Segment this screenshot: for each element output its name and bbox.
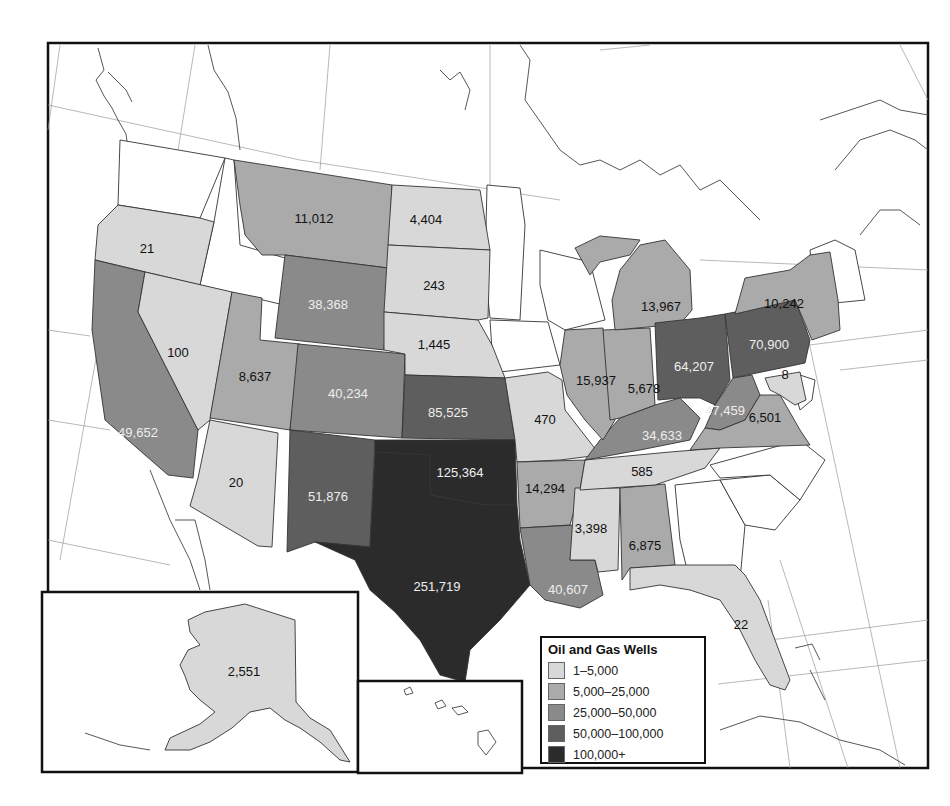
legend: Oil and Gas Wells 1–5,000 5,000–25,000 2… — [540, 636, 706, 764]
label-missouri: 470 — [534, 412, 556, 427]
legend-swatch — [548, 725, 565, 742]
legend-item: 5,000–25,000 — [548, 681, 698, 702]
legend-title: Oil and Gas Wells — [548, 642, 698, 657]
label-south-dakota: 243 — [423, 278, 445, 293]
label-pennsylvania: 70,900 — [749, 337, 789, 352]
legend-item: 25,000–50,000 — [548, 702, 698, 723]
label-colorado: 40,234 — [328, 386, 368, 401]
label-illinois: 15,937 — [576, 373, 616, 388]
state-minnesota — [485, 185, 525, 320]
legend-label: 1–5,000 — [573, 664, 618, 678]
label-texas: 251,719 — [414, 579, 461, 594]
legend-swatch — [548, 683, 565, 700]
label-oklahoma: 125,364 — [437, 465, 484, 480]
label-california: 49,652 — [118, 425, 158, 440]
legend-swatch — [548, 704, 565, 721]
label-virginia: 6,501 — [749, 410, 782, 425]
label-montana: 11,012 — [295, 211, 334, 226]
label-nebraska: 1,445 — [418, 337, 451, 352]
legend-swatch — [548, 662, 565, 679]
label-michigan: 13,967 — [641, 299, 681, 314]
label-new-mexico: 51,876 — [308, 489, 348, 504]
legend-label: 50,000–100,000 — [573, 727, 663, 741]
legend-label: 25,000–50,000 — [573, 706, 656, 720]
label-oregon: 21 — [140, 241, 154, 256]
label-arizona: 20 — [229, 475, 243, 490]
legend-label: 100,000+ — [573, 748, 625, 762]
label-ohio: 64,207 — [674, 359, 714, 374]
label-tennessee: 585 — [631, 464, 653, 479]
label-nevada: 100 — [167, 345, 189, 360]
label-mississippi: 3,398 — [575, 521, 608, 536]
legend-swatch — [548, 746, 565, 763]
label-new-york: 10,242 — [764, 296, 804, 311]
legend-item: 1–5,000 — [548, 660, 698, 681]
label-florida: 22 — [734, 617, 748, 632]
oil-gas-wells-map: 21 49,652 100 20 8,637 11,012 38,368 40,… — [0, 0, 950, 806]
label-wyoming: 38,368 — [308, 297, 348, 312]
label-north-dakota: 4,404 — [410, 212, 443, 227]
label-maryland: 8 — [781, 367, 788, 382]
label-kentucky: 34,633 — [642, 428, 682, 443]
hawaii-inset — [358, 681, 522, 773]
legend-label: 5,000–25,000 — [573, 685, 649, 699]
label-indiana: 5,678 — [628, 381, 661, 396]
state-iowa — [490, 320, 560, 372]
legend-item: 100,000+ — [548, 744, 698, 765]
label-louisiana: 40,607 — [548, 582, 588, 597]
label-kansas: 85,525 — [428, 405, 468, 420]
alaska-inset: 2,551 — [42, 592, 358, 772]
label-arkansas: 14,294 — [525, 481, 565, 496]
legend-item: 50,000–100,000 — [548, 723, 698, 744]
label-alaska: 2,551 — [228, 664, 261, 679]
label-alabama: 6,875 — [629, 538, 662, 553]
label-west-virginia: 47,459 — [705, 403, 745, 418]
label-utah: 8,637 — [239, 369, 272, 384]
